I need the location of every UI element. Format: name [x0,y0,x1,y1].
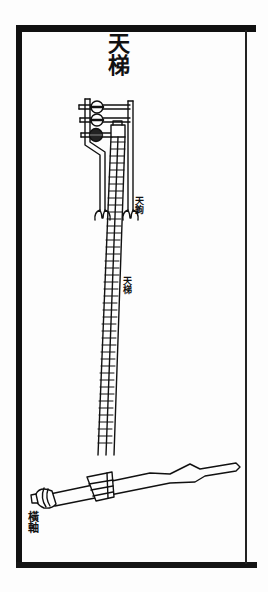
horizontal-axle [31,463,240,508]
pulley-icon [90,101,104,142]
label-axle: 橫軸 [26,511,38,533]
ladder-top-block [111,121,125,137]
label-hooks: 天鉤 [134,196,144,214]
print-page: 天梯 [0,0,268,592]
ladder [98,137,125,455]
label-ladder: 天梯 [122,276,132,294]
siege-ladder-illustration [0,0,268,592]
